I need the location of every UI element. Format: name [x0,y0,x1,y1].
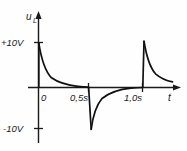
y-axis-label-subscript: L [33,17,37,24]
axis-label-group: u L t [26,11,172,103]
waveform-decay-positive-first [39,43,89,87]
y-tick-label-plus10: +10V [1,37,25,48]
x-axis-arrow-icon [173,84,181,90]
waveform-edge-falling [89,87,92,130]
waveform-group [39,41,173,130]
inductor-voltage-chart: u L t +10V -10V 0 0,5s 1,0s [0,0,187,151]
x-tick-label-origin: 0 [41,92,47,103]
y-tick-label-minus10: -10V [3,123,25,134]
y-axis-label: u [26,11,32,22]
chart-canvas: u L t +10V -10V 0 0,5s 1,0s [0,0,187,151]
x-tick-label-one-second: 1,0s [124,92,142,103]
x-tick-label-half-second: 0,5s [70,92,88,103]
x-axis-group [28,84,181,90]
waveform-edge-rising [143,41,144,88]
waveform-decay-positive-second [144,41,173,82]
x-axis-label: t [168,92,172,103]
